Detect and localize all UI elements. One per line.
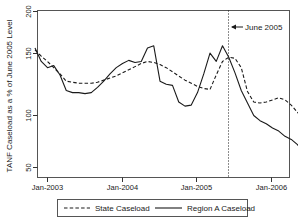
y-tick-label-50: 50 [24, 163, 33, 171]
y-tick-label-100: 100 [24, 109, 33, 122]
legend-label-state-caseload: State Caseload [95, 204, 150, 213]
tanf-caseload-line-chart: 200 150 100 50 TANF Caseload as a % of J… [0, 0, 298, 224]
y-axis-title: TANF Caseload as a % of June 2005 Level [5, 19, 14, 172]
x-tick-label-jan-2005: Jan-2005 [181, 183, 212, 192]
x-tick-label-jan-2003: Jan-2003 [32, 183, 63, 192]
y-tick-label-200: 200 [24, 5, 33, 18]
legend-label-region-a-caseload: Region A Caseload [187, 204, 255, 213]
x-tick-label-jan-2006: Jan-2006 [256, 183, 287, 192]
chart-figure: 200 150 100 50 TANF Caseload as a % of J… [0, 0, 298, 224]
x-tick-label-jan-2004: Jan-2004 [107, 183, 138, 192]
y-tick-label-150: 150 [24, 47, 33, 60]
june-2005-annotation-label: June 2005 [245, 23, 283, 32]
